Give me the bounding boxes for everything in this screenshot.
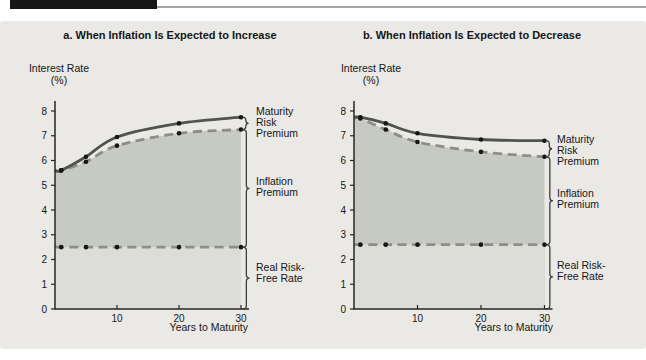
label-line: Free Rate — [256, 273, 328, 284]
svg-text:8: 8 — [41, 106, 47, 117]
panel-a-y-axis-label: Interest Rate (%) — [18, 62, 100, 86]
svg-text:6: 6 — [340, 155, 346, 166]
svg-text:4: 4 — [41, 205, 47, 216]
svg-text:2: 2 — [340, 254, 346, 265]
svg-text:7: 7 — [41, 130, 47, 141]
panel-b-real-risk-free-rate-label: Real Risk- Free Rate — [557, 260, 629, 282]
panel-b-y-axis-label: Interest Rate (%) — [330, 62, 412, 86]
panel-a-title: a. When Inflation Is Expected to Increas… — [38, 29, 302, 41]
y-axis-label-unit: (%) — [330, 74, 412, 86]
svg-text:8: 8 — [340, 106, 346, 117]
panel-a-inflation-premium-label: Inflation Premium — [256, 176, 328, 198]
label-line: Premium — [557, 199, 629, 210]
panel-b-inflation-premium-label: Inflation Premium — [557, 188, 629, 210]
svg-text:5: 5 — [340, 180, 346, 191]
y-axis-label-unit: (%) — [18, 74, 100, 86]
panel-a-real-risk-free-rate-label: Real Risk- Free Rate — [256, 262, 328, 284]
label-line: Premium — [557, 156, 629, 167]
svg-text:0: 0 — [41, 304, 47, 315]
panel-a-maturity-risk-premium-label: Maturity Risk Premium — [256, 106, 328, 140]
svg-text:1: 1 — [340, 279, 346, 290]
svg-text:3: 3 — [340, 229, 346, 240]
figure-page: 012345678102030012345678102030 a. When I… — [0, 0, 646, 360]
svg-text:6: 6 — [41, 155, 47, 166]
svg-text:2: 2 — [41, 254, 47, 265]
svg-text:5: 5 — [41, 180, 47, 191]
panel-a-x-axis-label: Years to Maturity — [95, 321, 248, 333]
svg-text:3: 3 — [41, 229, 47, 240]
panel-b-title: b. When Inflation Is Expected to Decreas… — [340, 29, 604, 41]
panel-b-x-axis-label: Years to Maturity — [400, 321, 553, 333]
label-line: Premium — [256, 187, 328, 198]
svg-text:1: 1 — [41, 279, 47, 290]
label-line: Free Rate — [557, 271, 629, 282]
svg-text:7: 7 — [340, 130, 346, 141]
svg-text:0: 0 — [340, 304, 346, 315]
svg-text:4: 4 — [340, 205, 346, 216]
y-axis-label-text: Interest Rate — [330, 62, 412, 74]
panel-b-maturity-risk-premium-label: Maturity Risk Premium — [557, 134, 629, 168]
label-line: Premium — [256, 128, 328, 139]
y-axis-label-text: Interest Rate — [18, 62, 100, 74]
